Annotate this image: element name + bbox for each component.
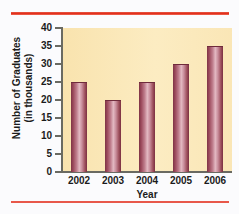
bottom-rule-divider: [11, 201, 229, 203]
x-axis-title: Year: [62, 189, 232, 200]
bar-2006: [207, 46, 223, 172]
bar-chart-figure: 40 35 30 25 20 15 10 5 0 2002 2003 2004 …: [0, 0, 239, 214]
x-tick-label-2004: 2004: [130, 175, 164, 186]
y-tick-mark: [55, 171, 62, 173]
y-axis-title-line2: (in thousands): [23, 13, 35, 163]
y-tick-mark: [55, 99, 62, 101]
y-axis-title-line1: Number of Graduates: [11, 13, 23, 163]
x-tick-label-2005: 2005: [164, 175, 198, 186]
bar-2005: [173, 64, 189, 172]
y-tick-mark: [55, 63, 62, 65]
bar-2002: [71, 82, 87, 172]
y-tick-mark: [55, 45, 62, 47]
y-tick-mark: [55, 135, 62, 137]
top-rule-divider: [11, 12, 229, 15]
bar-2003: [105, 100, 121, 173]
x-tick-label-2003: 2003: [96, 175, 130, 186]
x-tick-label-2002: 2002: [62, 175, 96, 186]
y-axis-title: Number of Graduates (in thousands): [11, 13, 35, 163]
bar-2004: [139, 82, 155, 172]
y-tick-mark: [55, 153, 62, 155]
y-tick-mark: [55, 27, 62, 29]
x-tick-label-2006: 2006: [198, 175, 232, 186]
y-tick-label: 0: [30, 167, 52, 177]
y-tick-mark: [55, 81, 62, 83]
y-tick-mark: [55, 117, 62, 119]
